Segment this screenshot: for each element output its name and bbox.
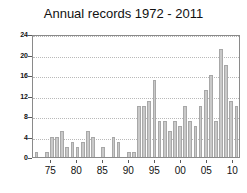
bar (183, 106, 187, 157)
bar-slot (234, 36, 239, 157)
x-axis-tick-mark (206, 160, 207, 163)
bar (235, 106, 239, 157)
y-axis-tick-label: 24 (20, 31, 28, 38)
bar (219, 49, 223, 157)
bar (158, 121, 162, 157)
bar (153, 80, 157, 157)
bar (71, 142, 75, 157)
x-axis-tick-label: 95 (144, 165, 164, 176)
bar-series (33, 36, 239, 157)
bar (112, 137, 116, 158)
x-axis: 7580859095000510 (0, 160, 247, 184)
chart-figure: Annual records 1972 - 2011 04812162024 7… (0, 0, 247, 193)
bar (147, 101, 151, 157)
x-axis-tick-label: 00 (170, 165, 190, 176)
y-axis-tick-label: 12 (20, 93, 28, 100)
bar (86, 131, 90, 157)
bar (50, 137, 54, 158)
bar (209, 75, 213, 157)
bar (76, 147, 80, 157)
x-axis-tick-label: 75 (40, 165, 60, 176)
bar (60, 131, 64, 157)
bar (173, 121, 177, 157)
bar (65, 147, 69, 157)
x-axis-tick-mark (102, 160, 103, 163)
x-axis-tick-label: 80 (66, 165, 86, 176)
bar (81, 142, 85, 157)
bar (132, 152, 136, 157)
x-axis-tick-mark (76, 160, 77, 163)
bar (188, 121, 192, 157)
bar (194, 126, 198, 157)
bar (163, 121, 167, 157)
bar (45, 152, 49, 157)
bar (214, 121, 218, 157)
bar (101, 147, 105, 157)
x-axis-tick-label: 05 (196, 165, 216, 176)
bar (55, 137, 59, 158)
bar (229, 101, 233, 157)
x-axis-tick-label: 85 (92, 165, 112, 176)
bar (35, 152, 39, 157)
bar (204, 90, 208, 157)
x-axis-tick-label: 10 (222, 165, 242, 176)
bar (142, 106, 146, 157)
bar (224, 65, 228, 157)
bar (168, 131, 172, 157)
x-axis-tick-mark (180, 160, 181, 163)
y-axis-tick-label: 16 (20, 72, 28, 79)
bar (178, 126, 182, 157)
bar (127, 152, 131, 157)
chart-title: Annual records 1972 - 2011 (0, 6, 247, 21)
x-axis-tick-mark (154, 160, 155, 163)
x-axis-tick-mark (128, 160, 129, 163)
x-axis-tick-mark (232, 160, 233, 163)
y-axis-tick-label: 20 (20, 52, 28, 59)
bar (91, 137, 95, 158)
plot-area (32, 35, 240, 158)
bar (117, 142, 121, 157)
x-axis-tick-mark (50, 160, 51, 163)
y-axis-tick-mark (28, 158, 32, 159)
x-axis-tick-label: 90 (118, 165, 138, 176)
bar (137, 106, 141, 157)
bar (199, 106, 203, 157)
